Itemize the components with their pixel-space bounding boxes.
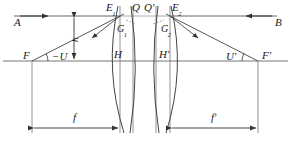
- angle-arc-back: [242, 54, 244, 62]
- label-glass-left-subscript: 1: [124, 31, 127, 38]
- label-incident-ray-left: A: [14, 17, 21, 28]
- label-focal-length-front: f: [73, 112, 76, 123]
- label-front-principal-point: H: [114, 49, 122, 60]
- label-back-principal-point: H': [159, 49, 169, 60]
- inner-ray-segment-left: [126, 20, 136, 24]
- label-angle-back: U': [226, 51, 236, 62]
- label-glass-left: G1: [117, 24, 127, 37]
- label-focal-length-back: f': [211, 112, 216, 123]
- refracted-ray-right: [170, 16, 198, 38]
- diagram-canvas: [0, 0, 291, 148]
- label-ray-height: h: [71, 38, 80, 43]
- label-inner-point-right: Q': [144, 2, 154, 13]
- label-glass-right: G2: [161, 24, 171, 37]
- label-back-focal-point: F': [262, 50, 271, 61]
- label-surface-vertex-right-subscript: 2: [178, 10, 181, 17]
- label-inner-point-left: Q: [132, 2, 140, 13]
- label-surface-vertex-right: E2: [172, 2, 182, 16]
- label-surface-vertex-left: E1: [106, 2, 116, 16]
- label-angle-front: −U: [52, 51, 67, 62]
- label-front-focal-point: F: [23, 50, 30, 61]
- label-glass-right-subscript: 2: [168, 31, 171, 38]
- label-incident-ray-right: B: [275, 17, 282, 28]
- label-surface-vertex-left-subscript: 1: [112, 10, 115, 17]
- refracted-ray-left: [92, 16, 120, 38]
- angle-arc-front: [46, 54, 48, 62]
- optical-ray-diagram: A B F F' H H' −U U' h E1 E2 Q Q' G1 G2 f…: [0, 0, 291, 148]
